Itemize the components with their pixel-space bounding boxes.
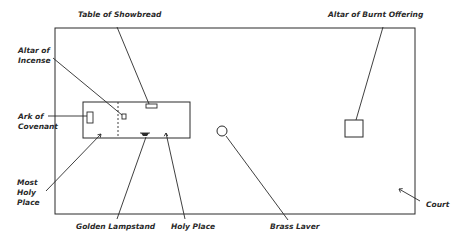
leader-altar-of-incense	[53, 58, 122, 115]
label-table-of-showbread: Table of Showbread	[78, 10, 162, 19]
label-altar-of-incense-2: Incense	[18, 56, 51, 65]
tabernacle-diagram: Table of Showbread Altar of Burnt Offeri…	[0, 0, 460, 240]
label-brass-laver: Brass Laver	[270, 222, 321, 231]
leader-brass-laver	[226, 136, 288, 220]
leader-golden-lampstand	[117, 137, 146, 219]
brass-laver-shape	[217, 126, 227, 136]
label-most-holy-2: Holy	[17, 188, 37, 197]
label-most-holy-1: Most	[17, 178, 38, 187]
leader-table-of-showbread	[117, 27, 149, 104]
label-most-holy-3: Place	[17, 198, 40, 207]
table-of-showbread-shape	[146, 104, 157, 108]
leader-holy-place	[164, 133, 185, 219]
label-ark-1: Ark of	[17, 112, 45, 121]
label-ark-2: Covenant	[18, 122, 58, 131]
altar-of-incense-shape	[122, 114, 126, 119]
label-court: Court	[426, 200, 450, 209]
label-golden-lampstand: Golden Lampstand	[76, 222, 156, 231]
golden-lampstand-shape	[141, 132, 149, 136]
leader-most-holy-place	[46, 134, 101, 191]
leader-court	[399, 189, 420, 201]
court-outline	[55, 28, 415, 214]
label-holy-place: Holy Place	[171, 222, 215, 231]
leader-altar-of-burnt-offering	[356, 27, 383, 120]
altar-of-burnt-offering-shape	[345, 120, 363, 137]
tabernacle-outline	[83, 102, 190, 138]
label-altar-of-incense-1: Altar of	[17, 46, 51, 55]
label-altar-of-burnt-offering: Altar of Burnt Offering	[327, 10, 424, 19]
ark-of-covenant-shape	[87, 112, 93, 123]
